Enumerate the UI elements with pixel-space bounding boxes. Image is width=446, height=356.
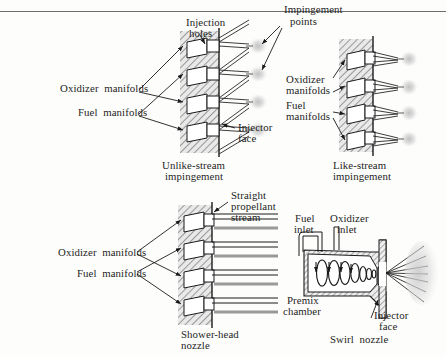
- manifold-body-sh-2: [184, 240, 204, 260]
- label-oxidizer-manifolds-shower: Oxidizer manifolds: [58, 247, 146, 259]
- label-oxidizer-manifolds-unlike: Oxidizer manifolds: [60, 83, 148, 95]
- label-injection-holes-line2: holes: [189, 28, 212, 40]
- caption-shower-head-line2: nozzle: [181, 340, 210, 352]
- label-fuel-manifolds-shower: Fuel manifolds: [77, 268, 146, 280]
- manifold-neck-sh-1: [204, 214, 214, 226]
- label-fuel-manifolds-unlike: Fuel manifolds: [78, 107, 147, 119]
- manifold-body-like-2: [347, 78, 365, 98]
- manifold-neck-sh-3: [204, 270, 214, 282]
- manifold-body-like-1: [347, 50, 365, 70]
- label-fuel-manifolds-like-line2: manifolds: [286, 111, 330, 123]
- manifold-body-4: [187, 122, 207, 142]
- manifold-body-1: [187, 38, 207, 58]
- panel-like-stream-impingement: [333, 36, 418, 156]
- spray-cloud-swirl: [405, 241, 439, 305]
- label-premix-chamber-line2: chamber: [283, 306, 321, 318]
- label-straight-stream-line3: stream: [231, 212, 260, 224]
- label-fuel-inlet-line2: inlet: [294, 224, 314, 236]
- panel-unlike-stream-impingement: [139, 20, 282, 157]
- caption-like-stream-line2: impingement: [333, 171, 391, 183]
- manifold-neck-2: [207, 68, 219, 80]
- injector-orifice-swirl: [379, 262, 386, 286]
- manifold-body-like-3: [347, 104, 365, 124]
- manifold-neck-3: [207, 96, 219, 108]
- label-impingement-points-line2: points: [290, 16, 317, 28]
- injector-types-figure: Impingement points Injection holes Oxidi…: [0, 0, 446, 356]
- manifold-neck-sh-2: [204, 242, 214, 254]
- like-jets: [373, 52, 398, 146]
- manifold-body-3: [187, 94, 207, 114]
- label-impingement-points-line1: Impingement: [284, 4, 343, 16]
- caption-swirl-nozzle: Swirl nozzle: [330, 334, 388, 346]
- impingement-sprays-like: [397, 51, 418, 147]
- manifold-body-sh-3: [184, 268, 204, 288]
- manifold-body-sh-1: [184, 212, 204, 232]
- manifold-body-sh-4: [184, 296, 204, 316]
- manifold-neck-sh-4: [204, 298, 214, 310]
- caption-unlike-stream-line2: impingement: [165, 171, 223, 183]
- manifold-body-2: [187, 66, 207, 86]
- label-injector-face-swirl-line2: face: [379, 321, 397, 333]
- label-oxidizer-manifolds-like-line2: manifolds: [286, 85, 330, 97]
- straight-streams: [212, 214, 278, 312]
- manifold-body-like-4: [347, 130, 365, 150]
- manifold-neck-4: [207, 124, 219, 136]
- manifold-neck-1: [207, 40, 219, 52]
- label-oxidizer-inlet-line2: inlet: [337, 224, 357, 236]
- label-injector-face-line2: face: [238, 133, 256, 145]
